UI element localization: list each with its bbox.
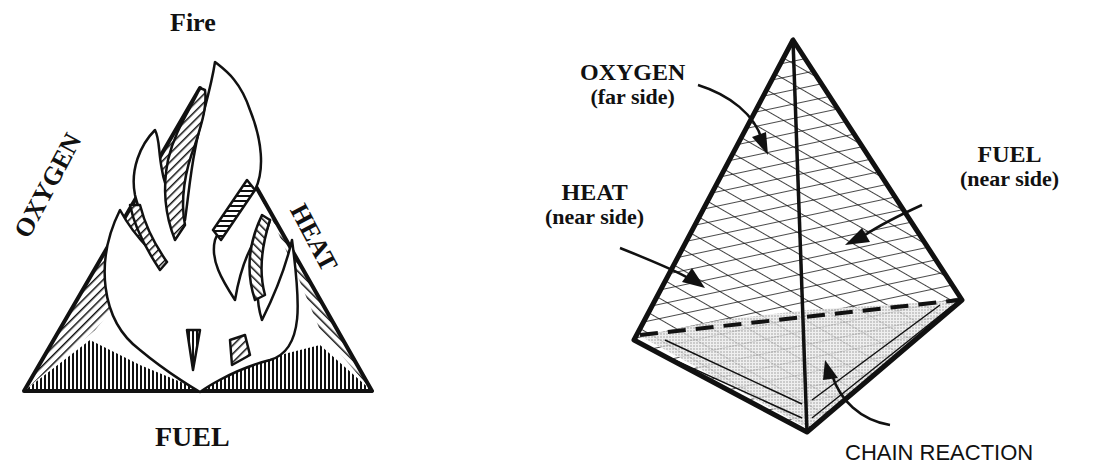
label-fuel-name: FUEL	[960, 142, 1059, 166]
fire-triangle-diagram: Fire OXYGEN HEAT FUEL	[0, 0, 400, 474]
label-fuel: FUEL (near side)	[960, 142, 1059, 190]
label-oxygen-name: OXYGEN	[580, 60, 685, 84]
label-heat: HEAT (near side)	[545, 180, 644, 228]
fire-triangle-graphic	[0, 0, 400, 474]
fire-tetrahedron-diagram: OXYGEN (far side) HEAT (near side) FUEL …	[540, 0, 1100, 474]
label-heat-note: (near side)	[545, 206, 644, 228]
label-oxygen-note: (far side)	[580, 86, 685, 108]
label-oxygen: OXYGEN (far side)	[580, 60, 685, 108]
label-fuel-note: (near side)	[960, 168, 1059, 190]
label-heat-name: HEAT	[545, 180, 644, 204]
fire-title: Fire	[170, 10, 216, 36]
triangle-label-fuel: FUEL	[155, 423, 230, 451]
label-chain-reaction: CHAIN REACTION	[845, 442, 1033, 464]
